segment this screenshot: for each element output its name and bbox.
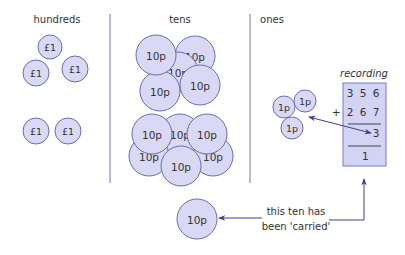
- tens-coins: 10p10p10p10p10p10p10p10p10p10p10p: [129, 35, 233, 186]
- ones-coins: 1p1p1p: [273, 90, 316, 139]
- coin-label: £1: [30, 126, 42, 137]
- coin-label: 10p: [146, 50, 166, 62]
- column-header-hundreds: hundreds: [34, 14, 81, 25]
- recording-carry-digit: 1: [362, 150, 370, 162]
- coin-label: 10p: [150, 86, 170, 98]
- coin-label: 1p: [278, 102, 290, 113]
- ten-pence-coin: 10p: [136, 35, 176, 75]
- ten-pence-coin: 10p: [187, 114, 227, 154]
- ten-pence-coin: 10p: [161, 146, 201, 186]
- recording-answer-ones: 3: [373, 127, 381, 139]
- ten-pence-coin: 10p: [177, 199, 217, 239]
- column-header-ones: ones: [260, 14, 284, 25]
- pound-coin: £1: [62, 56, 88, 82]
- pound-coin: £1: [38, 35, 62, 59]
- carried-annotation-line1: this ten has: [267, 206, 326, 217]
- carried-ten-coin: 10p: [177, 199, 217, 239]
- coin-label: £1: [44, 42, 56, 53]
- place-value-diagram: hundreds tens ones £1£1£1£1£1 10p10p10p1…: [0, 0, 405, 255]
- ten-pence-coin: 10p: [180, 65, 220, 105]
- coin-label: 10p: [142, 129, 162, 141]
- coin-label: £1: [30, 68, 42, 79]
- recording-top-number: 3 5 6: [347, 87, 381, 99]
- recording-addend: + 2 6 7: [332, 106, 381, 118]
- recording-title: recording: [340, 68, 388, 79]
- penny-coin: 1p: [294, 90, 316, 112]
- hundreds-coins: £1£1£1£1£1: [23, 35, 88, 144]
- pound-coin: £1: [55, 118, 81, 144]
- ten-pence-coin: 10p: [140, 71, 180, 111]
- carry-arrow-to-recording: [329, 179, 364, 220]
- coin-label: 1p: [286, 123, 298, 134]
- column-header-tens: tens: [169, 14, 191, 25]
- coin-label: 10p: [197, 129, 217, 141]
- ten-pence-coin: 10p: [132, 114, 172, 154]
- coin-label: 1p: [299, 96, 311, 107]
- penny-coin: 1p: [273, 96, 295, 118]
- pound-coin: £1: [23, 60, 49, 86]
- coin-label: 10p: [190, 80, 210, 92]
- coin-label: £1: [69, 64, 81, 75]
- coin-label: 10p: [187, 214, 207, 226]
- carried-annotation-line2: been 'carried': [262, 221, 331, 232]
- coin-label: £1: [62, 126, 74, 137]
- coin-label: 10p: [171, 161, 191, 173]
- penny-coin: 1p: [281, 117, 303, 139]
- pound-coin: £1: [23, 118, 49, 144]
